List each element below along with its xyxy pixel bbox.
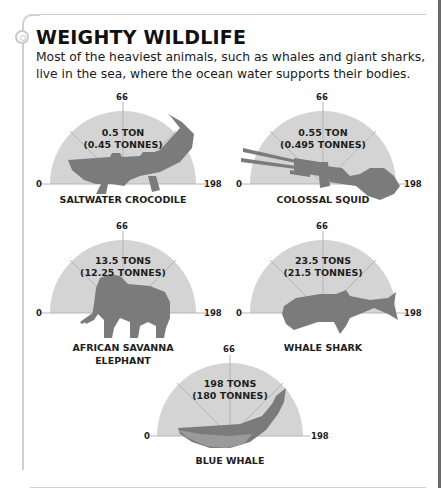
gauge-graphic	[0, 0, 441, 488]
weight-us: 198 TONS	[185, 378, 275, 390]
gauge-blue-whale: 66 0 198 198 TONS (180 TONNES) BLUE WHAL…	[0, 0, 441, 488]
scale-min-label: 0	[144, 431, 150, 441]
animal-name: BLUE WHALE	[150, 454, 310, 467]
weight-label: 198 TONS (180 TONNES)	[185, 378, 275, 402]
weight-metric: (180 TONNES)	[185, 390, 275, 402]
scale-max-label: 198	[311, 431, 329, 441]
scale-mid-label: 66	[223, 344, 235, 354]
